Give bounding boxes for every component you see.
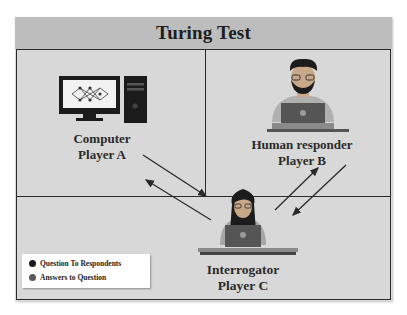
player-b-name: Player B — [232, 153, 372, 169]
arrow-question-a — [143, 155, 206, 196]
legend-item-answer: Answers to Question — [29, 273, 106, 282]
player-a-name: Player A — [52, 147, 152, 163]
player-a-label: Computer Player A — [52, 131, 152, 163]
gray-dot-icon — [29, 274, 36, 281]
player-b-label: Human responder Player B — [232, 137, 372, 169]
player-c-name: Player C — [193, 278, 293, 294]
player-b-role: Human responder — [232, 137, 372, 153]
computer-icon — [59, 76, 147, 123]
player-c-label: Interrogator Player C — [193, 262, 293, 294]
arrow-question-b — [293, 165, 346, 215]
player-a-role: Computer — [52, 131, 152, 147]
arrow-answer-a — [146, 180, 211, 220]
legend: Question To Respondents Answers to Quest… — [22, 254, 150, 288]
dark-dot-icon — [29, 260, 36, 267]
interrogator-laptop-icon — [198, 189, 298, 255]
human-laptop-icon — [267, 59, 349, 132]
arrow-answer-b — [275, 168, 318, 210]
player-c-role: Interrogator — [193, 262, 293, 278]
legend-item-question: Question To Respondents — [29, 259, 121, 268]
